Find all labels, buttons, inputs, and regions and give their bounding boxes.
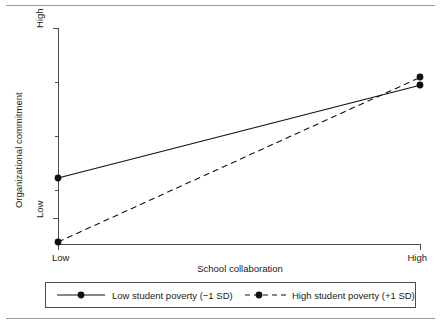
series-line-low-poverty [58, 85, 421, 178]
line-chart: High Low Low High Organizational commitm… [0, 0, 441, 326]
data-point-low-poverty-low-collab [55, 175, 62, 182]
y-tick-label-low: Low [34, 200, 45, 218]
y-tick-label-high: High [34, 8, 45, 28]
legend-label-high-poverty: High student poverty (+1 SD) [292, 290, 415, 301]
legend-swatch-marker-low-poverty [78, 292, 85, 299]
data-point-high-poverty-low-collab [55, 239, 62, 246]
legend-swatch-marker-high-poverty [256, 292, 263, 299]
y-axis-title: Organizational commitment [13, 92, 24, 208]
series-line-high-poverty [58, 77, 421, 242]
data-point-low-poverty-high-collab [417, 82, 424, 89]
x-tick-label-high: High [407, 252, 427, 263]
legend-label-low-poverty: Low student poverty (−1 SD) [112, 290, 233, 301]
x-axis-title: School collaboration [197, 263, 283, 274]
x-tick-label-low: Low [52, 252, 70, 263]
data-point-high-poverty-high-collab [417, 74, 424, 81]
figure-container: High Low Low High Organizational commitm… [0, 0, 441, 326]
